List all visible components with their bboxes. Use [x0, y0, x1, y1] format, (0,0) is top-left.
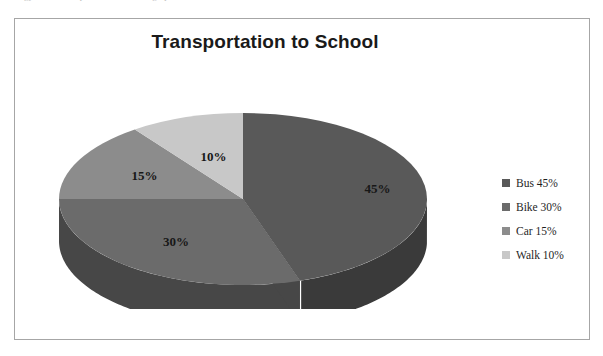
pie-data-label-walk: 10% — [200, 149, 226, 164]
pie-top-face — [59, 113, 427, 285]
legend-swatch-bike — [502, 203, 510, 211]
pie-chart: 45%30%15%10% — [53, 69, 457, 309]
legend-swatch-bus — [502, 179, 510, 187]
legend-item-walk[interactable]: Walk 10% — [502, 243, 588, 267]
pie-chart-svg: 45%30%15%10% — [53, 69, 457, 309]
legend-swatch-walk — [502, 251, 510, 259]
legend-label-bike: Bike 30% — [516, 201, 562, 213]
pie-data-label-car: 15% — [132, 168, 158, 183]
chart-title: Transportation to School — [15, 31, 515, 53]
legend-item-car[interactable]: Car 15% — [502, 219, 588, 243]
pie-data-label-bike: 30% — [163, 234, 189, 249]
cut-off-text-fragment-3: n the graph to as follows: — [131, 0, 227, 1]
legend-label-car: Car 15% — [516, 225, 557, 237]
legend-item-bike[interactable]: Bike 30% — [502, 195, 588, 219]
pie-data-label-bus: 45% — [365, 181, 391, 196]
chart-frame: Transportation to School 45%30%15%10% Bu… — [14, 18, 590, 340]
cut-off-text-fragment-1: gy — [24, 0, 33, 1]
legend-item-bus[interactable]: Bus 45% — [502, 171, 588, 195]
legend-label-bus: Bus 45% — [516, 177, 558, 189]
cut-off-text-fragment-2: p — [80, 0, 85, 1]
legend-swatch-car — [502, 227, 510, 235]
legend-label-walk: Walk 10% — [516, 249, 564, 261]
cut-off-page-text: gy p n the graph to as follows: — [0, 0, 603, 5]
chart-legend: Bus 45% Bike 30% Car 15% Walk 10% — [502, 171, 588, 267]
